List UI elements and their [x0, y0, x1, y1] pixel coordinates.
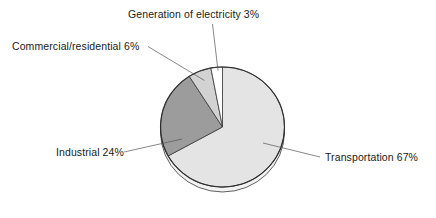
- label-industrial: Industrial 24%: [56, 146, 124, 158]
- label-transportation: Transportation 67%: [325, 151, 418, 163]
- leader-line-commercial-residential: [148, 47, 205, 81]
- label-generation-of-electricity: Generation of electricity 3%: [128, 8, 259, 20]
- label-commercial-residential: Commercial/residential 6%: [12, 40, 139, 52]
- pie-chart-svg: Generation of electricity 3% Commercial/…: [0, 0, 436, 218]
- leader-line-generation-of-electricity: [213, 24, 219, 71]
- pie-chart-figure: Generation of electricity 3% Commercial/…: [0, 0, 436, 218]
